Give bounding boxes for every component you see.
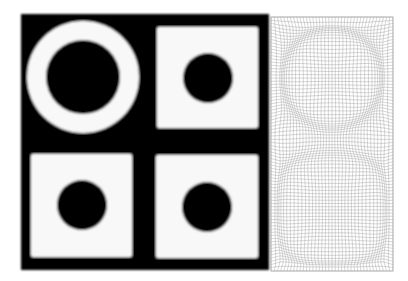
adaptive-mesh (0, 0, 408, 281)
figure (0, 0, 408, 281)
